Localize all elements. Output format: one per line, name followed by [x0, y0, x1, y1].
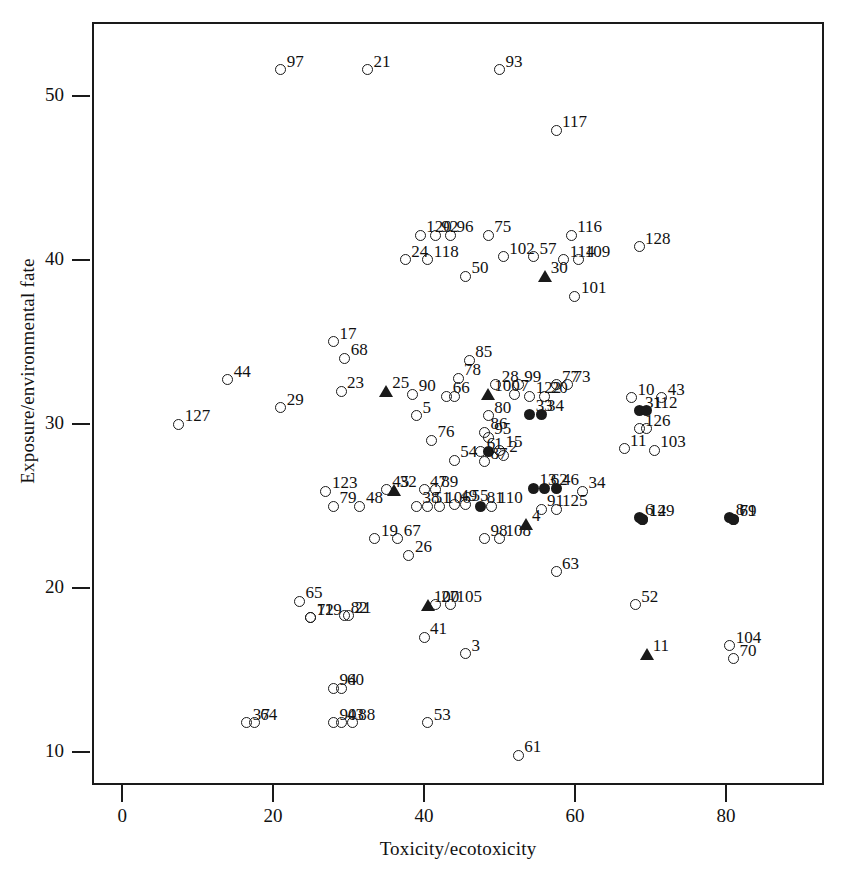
open-circle-marker[interactable]: [728, 653, 739, 664]
open-circle-marker[interactable]: [449, 499, 460, 510]
open-circle-marker[interactable]: [626, 392, 637, 403]
x-tick-mark: [423, 785, 425, 802]
open-circle-marker[interactable]: [460, 271, 471, 282]
open-circle-marker[interactable]: [430, 599, 441, 610]
open-circle-marker[interactable]: [275, 64, 286, 75]
open-circle-marker[interactable]: [524, 391, 535, 402]
open-circle-marker[interactable]: [419, 632, 430, 643]
open-circle-marker[interactable]: [415, 230, 426, 241]
open-circle-marker[interactable]: [479, 456, 490, 467]
open-circle-marker[interactable]: [445, 230, 456, 241]
triangle-marker[interactable]: [640, 648, 654, 660]
open-circle-marker[interactable]: [430, 230, 441, 241]
y-axis-title: Exposure/environmental fate: [17, 111, 39, 631]
open-circle-marker[interactable]: [449, 391, 460, 402]
open-circle-marker[interactable]: [573, 254, 584, 265]
open-circle-marker[interactable]: [222, 374, 233, 385]
open-circle-marker[interactable]: [422, 717, 433, 728]
open-circle-marker[interactable]: [275, 402, 286, 413]
open-circle-marker[interactable]: [336, 717, 347, 728]
open-circle-marker[interactable]: [362, 64, 373, 75]
triangle-marker[interactable]: [379, 385, 393, 397]
open-circle-marker[interactable]: [528, 251, 539, 262]
open-circle-marker[interactable]: [422, 501, 433, 512]
open-circle-marker[interactable]: [566, 230, 577, 241]
open-circle-marker[interactable]: [354, 501, 365, 512]
open-circle-marker[interactable]: [411, 410, 422, 421]
data-point-label: 34: [547, 397, 564, 414]
open-circle-marker[interactable]: [403, 550, 414, 561]
open-circle-marker[interactable]: [460, 648, 471, 659]
open-circle-marker[interactable]: [630, 599, 641, 610]
open-circle-marker[interactable]: [449, 455, 460, 466]
data-point-label: 65: [306, 584, 323, 601]
open-circle-marker[interactable]: [328, 501, 339, 512]
open-circle-marker[interactable]: [494, 64, 505, 75]
triangle-marker[interactable]: [538, 270, 552, 282]
open-circle-marker[interactable]: [498, 251, 509, 262]
data-point-label: 53: [434, 706, 451, 723]
open-circle-marker[interactable]: [724, 640, 735, 651]
open-circle-marker[interactable]: [445, 599, 456, 610]
data-point-label: 68: [351, 341, 368, 358]
open-circle-marker[interactable]: [343, 610, 354, 621]
triangle-marker[interactable]: [481, 388, 495, 400]
open-circle-marker[interactable]: [173, 419, 184, 430]
open-circle-marker[interactable]: [411, 501, 422, 512]
open-circle-marker[interactable]: [369, 533, 380, 544]
open-circle-marker[interactable]: [407, 389, 418, 400]
open-circle-marker[interactable]: [460, 499, 471, 510]
filled-circle-marker[interactable]: [536, 409, 547, 420]
data-point-label: 46: [562, 471, 579, 488]
open-circle-marker[interactable]: [339, 353, 350, 364]
open-circle-marker[interactable]: [551, 504, 562, 515]
data-point-label: 128: [645, 230, 671, 247]
open-circle-marker[interactable]: [569, 291, 580, 302]
open-circle-marker[interactable]: [305, 612, 316, 623]
open-circle-marker[interactable]: [649, 445, 660, 456]
filled-circle-marker[interactable]: [637, 514, 648, 525]
open-circle-marker[interactable]: [392, 533, 403, 544]
open-circle-marker[interactable]: [336, 683, 347, 694]
data-point-label: 54: [460, 443, 477, 460]
open-circle-marker[interactable]: [434, 501, 445, 512]
data-point-label: 11: [653, 637, 669, 654]
open-circle-marker[interactable]: [328, 336, 339, 347]
open-circle-marker[interactable]: [479, 533, 490, 544]
open-circle-marker[interactable]: [422, 254, 433, 265]
plot-area: 9721931171209296751161282411810257114109…: [92, 22, 824, 785]
filled-circle-marker[interactable]: [524, 409, 535, 420]
open-circle-marker[interactable]: [336, 386, 347, 397]
triangle-marker[interactable]: [387, 484, 401, 496]
open-circle-marker[interactable]: [551, 566, 562, 577]
data-point-label: 57: [539, 240, 556, 257]
open-circle-marker[interactable]: [551, 125, 562, 136]
data-point-label: 117: [562, 113, 587, 130]
open-circle-marker[interactable]: [513, 750, 524, 761]
open-circle-marker[interactable]: [294, 596, 305, 607]
data-point-label: 129: [649, 502, 675, 519]
filled-circle-marker[interactable]: [728, 514, 739, 525]
open-circle-marker[interactable]: [483, 230, 494, 241]
data-point-label: 127: [185, 407, 211, 424]
open-circle-marker[interactable]: [486, 501, 497, 512]
data-point-label: 96: [456, 218, 473, 235]
data-point-label: 71: [739, 502, 756, 519]
filled-circle-marker[interactable]: [528, 483, 539, 494]
open-circle-marker[interactable]: [619, 443, 630, 454]
triangle-marker[interactable]: [519, 518, 533, 530]
open-circle-marker[interactable]: [453, 373, 464, 384]
open-circle-marker[interactable]: [249, 717, 260, 728]
open-circle-marker[interactable]: [347, 717, 358, 728]
open-circle-marker[interactable]: [400, 254, 411, 265]
y-tick-mark: [72, 95, 90, 97]
y-tick-label: 30: [18, 412, 64, 434]
open-circle-marker[interactable]: [320, 486, 331, 497]
open-circle-marker[interactable]: [634, 241, 645, 252]
open-circle-marker[interactable]: [494, 533, 505, 544]
open-circle-marker[interactable]: [426, 435, 437, 446]
x-axis-title: Toxicity/ecotoxicity: [92, 838, 824, 860]
data-point-label: 21: [355, 599, 372, 616]
filled-circle-marker[interactable]: [475, 501, 486, 512]
data-point-label: 87: [490, 445, 507, 462]
